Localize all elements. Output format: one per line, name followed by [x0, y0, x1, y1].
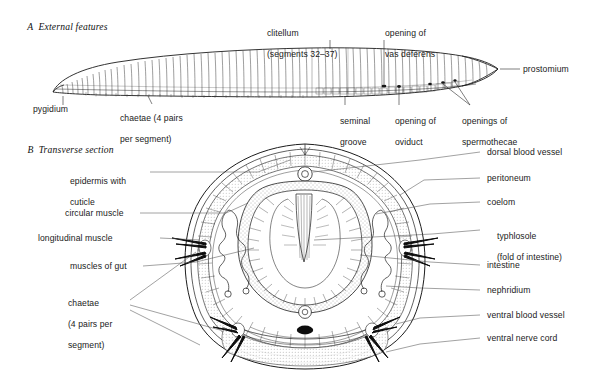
- label-oviduct-opening: opening of oviduct: [385, 106, 436, 158]
- label-epidermis-l1: epidermis with: [70, 176, 126, 186]
- label-chaetae-section-l1: chaetae: [68, 298, 99, 308]
- label-oviduct-l1: opening of: [395, 116, 436, 126]
- oviduct-opening: [397, 85, 401, 88]
- label-chaetae-section: chaetae (4 pairs per segment): [58, 288, 112, 361]
- vas-deferens-opening: [382, 85, 387, 88]
- leader-peritoneum: [400, 178, 480, 195]
- label-clitellum-l1: clitellum: [267, 28, 299, 38]
- label-coelom: coelom: [487, 197, 515, 207]
- label-clitellum-l2: (segments 32–37): [267, 49, 338, 59]
- label-seminal-groove: seminal groove: [330, 106, 370, 158]
- spermotheca-opening-1: [428, 83, 432, 86]
- label-circular-muscle: circular muscle: [65, 208, 124, 218]
- label-chaetae-section-l2: (4 pairs per: [68, 319, 113, 329]
- panel-a-title-text: External features: [38, 21, 107, 32]
- label-pygidium: pygidium: [33, 104, 68, 114]
- label-vas-deferens-l2: vas deferens: [385, 49, 435, 59]
- label-spermothecae-l2: spermothecae: [462, 137, 518, 147]
- label-chaetae-external-l1: chaetae (4 pairs: [120, 113, 183, 123]
- label-chaetae-external-l2: per segment): [120, 134, 172, 144]
- label-spermothecae-l1: openings of: [462, 116, 507, 126]
- label-seminal-groove-l2: groove: [340, 137, 367, 147]
- figure-canvas: A External features B Transverse section…: [0, 0, 590, 377]
- label-nephridium: nephridium: [487, 285, 530, 295]
- panel-a-title: A External features: [17, 10, 108, 43]
- ventral-nerve-cord: [297, 326, 313, 335]
- label-chaetae-section-l3: segment): [68, 340, 105, 350]
- label-seminal-groove-l1: seminal: [340, 116, 370, 126]
- label-prostomium: prostomium: [523, 64, 569, 74]
- label-longitudinal-muscle: longitudinal muscle: [38, 233, 113, 243]
- panel-b-title-text: Transverse section: [39, 144, 114, 155]
- spermotheca-opening-2: [441, 81, 445, 84]
- label-clitellum: clitellum (segments 32–37): [257, 18, 338, 70]
- label-chaetae-external: chaetae (4 pairs per segment): [110, 103, 183, 155]
- label-vas-deferens-opening: opening of vas deferens: [375, 18, 435, 70]
- leader-ventral-nerve-cord: [386, 338, 480, 352]
- label-vas-deferens-l1: opening of: [385, 28, 426, 38]
- dorsal-blood-vessel: [298, 167, 312, 181]
- label-typhlosole-l1: typhlosole: [497, 231, 537, 241]
- label-ventral-nerve-cord: ventral nerve cord: [487, 333, 557, 343]
- label-peritoneum: peritoneum: [487, 173, 531, 183]
- label-intestine: intestine: [487, 260, 520, 270]
- worm-transverse-section: [130, 144, 480, 369]
- label-ventral-blood-vessel: ventral blood vessel: [487, 310, 565, 320]
- leader-chaetae-b-3: [130, 310, 200, 345]
- label-dorsal-blood-vessel: dorsal blood vessel: [487, 147, 562, 157]
- label-oviduct-l2: oviduct: [395, 137, 423, 147]
- label-epidermis-l2: cuticle: [70, 197, 95, 207]
- label-muscles-of-gut: muscles of gut: [70, 261, 127, 271]
- ventral-blood-vessel: [299, 306, 312, 319]
- panel-b-title: B Transverse section: [17, 133, 114, 166]
- spermotheca-opening-3: [453, 79, 456, 81]
